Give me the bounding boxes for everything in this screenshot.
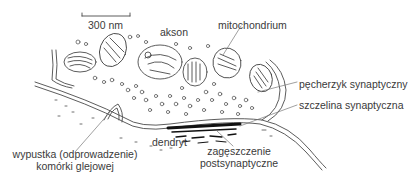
label-postsynaptic-density: zagęszczenie postsynaptyczne — [196, 145, 282, 169]
label-postsynaptic-density-line1: zagęszczenie — [196, 145, 282, 157]
scale-bar-label: 300 nm — [88, 19, 123, 31]
synaptic-vesicles — [76, 35, 254, 116]
label-synaptic-vesicle: pęcherzyk synaptyczny — [299, 78, 408, 90]
synapse-diagram: 300 nm akson mitochondrium pęcherzyk syn… — [0, 0, 419, 177]
label-glial-process-line1: wypustka (odprowadzenie) — [12, 148, 138, 160]
label-synaptic-cleft: szczelina synaptyczna — [299, 99, 403, 111]
label-dendrite: dendryt — [152, 136, 187, 148]
label-postsynaptic-density-line2: postsynaptyczne — [196, 157, 282, 169]
label-axon: akson — [160, 26, 188, 38]
mitochondria — [64, 30, 276, 95]
label-glial-process-line2: komórki glejowej — [12, 160, 138, 172]
scale-bar — [82, 13, 130, 16]
label-mitochondrion: mitochondrium — [218, 19, 287, 31]
label-glial-process: wypustka (odprowadzenie) komórki glejowe… — [12, 148, 138, 172]
